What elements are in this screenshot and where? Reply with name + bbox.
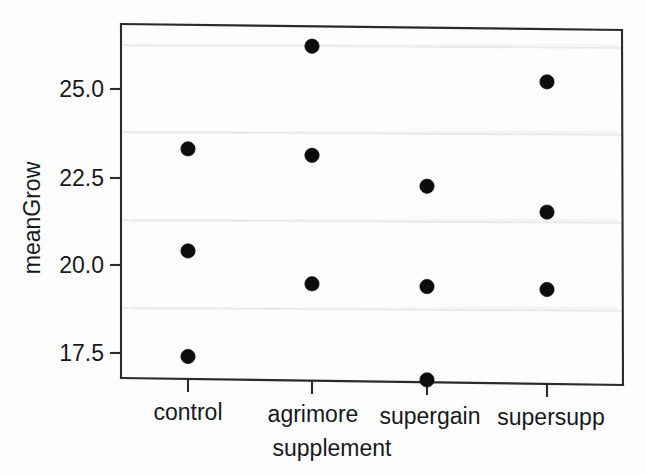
x-tick-label-control: control xyxy=(153,399,222,425)
y-tick-label-25-0: 25.0 xyxy=(59,76,104,102)
data-point xyxy=(540,282,554,296)
data-point xyxy=(540,205,554,219)
scatter-plot-figure: 17.5 20.0 22.5 25.0 meanGrow control agr… xyxy=(0,0,645,474)
data-point xyxy=(181,142,195,156)
x-tick-label-supergain: supergain xyxy=(379,403,480,429)
data-point xyxy=(305,39,319,53)
y-tick-label-22-5: 22.5 xyxy=(59,165,104,191)
data-point xyxy=(305,148,319,162)
x-tick-label-supersupp: supersupp xyxy=(497,404,604,430)
data-point xyxy=(305,277,319,291)
data-point xyxy=(420,179,434,193)
y-axis-title: meanGrow xyxy=(19,161,45,274)
data-point xyxy=(540,75,554,89)
data-point xyxy=(420,373,434,387)
y-tick-label-17-5: 17.5 xyxy=(59,340,104,366)
plot-canvas: 17.5 20.0 22.5 25.0 meanGrow control agr… xyxy=(0,0,645,474)
y-tick-label-20-0: 20.0 xyxy=(59,252,104,278)
x-axis-title: supplement xyxy=(273,435,393,461)
x-tick-label-agrimore: agrimore xyxy=(268,401,359,427)
data-point xyxy=(420,279,434,293)
data-point xyxy=(181,244,195,258)
data-point xyxy=(181,349,195,363)
